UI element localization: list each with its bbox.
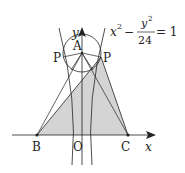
eq-y-exponent: 2	[148, 15, 152, 23]
point-B	[35, 133, 38, 136]
eq-rhs: = 1	[156, 25, 178, 39]
segment-A-Pright	[82, 53, 101, 57]
hyperbola-left-branch	[59, 28, 73, 165]
segment-A-down-left	[71, 53, 82, 70]
eq-denominator: 24	[138, 34, 152, 47]
label-B: B	[32, 140, 41, 154]
eq-x: x	[110, 25, 117, 39]
label-C: C	[121, 140, 130, 154]
eq-minus: −	[124, 25, 134, 39]
hyperbola-equation: x 2 − y 2 24 = 1	[110, 15, 178, 47]
y-axis-label: y	[71, 26, 79, 40]
label-O: O	[73, 140, 83, 154]
label-P-left: P	[53, 51, 61, 65]
label-A: A	[72, 39, 82, 53]
label-P-right: P	[103, 51, 111, 65]
segment-A-Pleft	[63, 53, 82, 57]
point-C	[126, 133, 129, 136]
eq-x-exponent: 2	[117, 22, 122, 31]
segment-A-down-right	[82, 53, 93, 70]
eq-y: y	[140, 17, 148, 30]
hyperbola-diagram: y A P P B O C x x 2 − y 2 24 = 1	[0, 0, 185, 173]
x-axis-label: x	[145, 140, 152, 154]
